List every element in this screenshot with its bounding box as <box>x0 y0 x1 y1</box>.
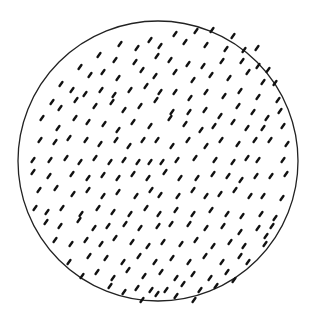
dash-mark <box>143 274 146 278</box>
dash-mark <box>219 114 222 118</box>
dash-mark <box>234 188 237 192</box>
dash-mark <box>102 173 105 177</box>
dash-mark <box>123 108 126 112</box>
dash-mark <box>72 192 75 196</box>
dash-mark <box>195 238 198 242</box>
dash-mark <box>176 158 179 162</box>
dash-mark <box>212 172 215 176</box>
dash-mark <box>192 188 195 192</box>
dash-mark <box>84 92 87 96</box>
dash-mark <box>149 124 152 128</box>
dash-mark <box>260 212 263 216</box>
dash-mark <box>175 294 178 298</box>
dash-mark <box>220 138 223 142</box>
dash-mark <box>246 126 249 130</box>
dash-mark <box>39 138 42 142</box>
dash-mark <box>247 260 250 264</box>
dash-mark <box>187 62 190 66</box>
dash-mark <box>127 268 130 272</box>
dash-mark <box>155 98 158 102</box>
dash-mark <box>175 208 178 212</box>
dash-mark <box>99 142 102 146</box>
dash-mark <box>147 176 150 180</box>
dash-mark <box>87 120 90 124</box>
dash-mark <box>188 260 191 264</box>
dash-mark <box>210 208 213 212</box>
dash-mark <box>129 88 132 92</box>
dash-mark <box>88 254 91 258</box>
dash-mark <box>134 60 137 64</box>
dash-mark <box>189 96 192 100</box>
dash-mark <box>107 224 110 228</box>
dash-mark <box>117 176 120 180</box>
dash-mark <box>195 29 198 33</box>
dash-mark <box>239 254 242 258</box>
dash-mark <box>34 206 37 210</box>
dash-mark <box>252 110 255 114</box>
dash-mark <box>188 110 191 114</box>
dash-mark <box>74 116 77 120</box>
dash-mark <box>87 188 90 192</box>
dash-mark <box>267 68 270 72</box>
dash-mark <box>122 260 125 264</box>
dash-mark <box>262 194 265 198</box>
dash-mark <box>51 100 54 104</box>
dash-mark <box>237 142 240 146</box>
dash-mark <box>171 256 174 260</box>
dash-mark <box>257 64 260 68</box>
dash-mark <box>257 158 260 162</box>
dash-mark <box>219 192 222 196</box>
dash-mark <box>59 106 62 110</box>
dash-mark <box>32 158 35 162</box>
dash-mark <box>54 238 57 242</box>
dash-mark <box>269 138 272 142</box>
dash-mark <box>70 242 73 246</box>
dash-mark <box>182 282 185 286</box>
dash-mark <box>150 288 153 292</box>
dash-mark <box>225 47 228 51</box>
dash-mark <box>154 260 157 264</box>
dash-mark <box>192 272 195 276</box>
dash-mark <box>139 104 142 108</box>
dash-mark <box>135 194 138 198</box>
dash-mark <box>79 160 82 164</box>
dash-mark <box>85 238 88 242</box>
dash-mark <box>187 138 190 142</box>
dash-mark <box>271 224 274 228</box>
dash-mark <box>80 212 83 216</box>
dash-mark <box>228 76 231 80</box>
dash-mark <box>205 226 208 230</box>
dash-mark <box>229 240 232 244</box>
dash-mark <box>117 128 120 132</box>
dash-mark <box>141 68 144 72</box>
dash-mark <box>174 90 177 94</box>
dash-mark <box>240 178 243 182</box>
dash-mark <box>204 108 207 112</box>
dash-mark <box>112 276 115 280</box>
dash-mark <box>161 160 164 164</box>
dash-mark <box>205 43 208 47</box>
dash-mark <box>222 224 225 228</box>
dash-mark <box>117 76 120 80</box>
dash-mark <box>257 95 260 99</box>
dash-mark <box>54 140 57 144</box>
dash-marks <box>32 28 289 302</box>
dash-mark <box>192 78 195 82</box>
dash-mark <box>241 214 244 218</box>
dash-mark <box>128 144 131 148</box>
dash-mark <box>204 254 207 258</box>
dash-mark <box>211 28 214 32</box>
dash-mark <box>100 88 103 92</box>
dash-mark <box>214 158 217 162</box>
dash-mark <box>193 298 196 302</box>
dash-mark <box>102 70 105 74</box>
dash-mark <box>87 176 90 180</box>
dash-mark <box>59 224 62 228</box>
dash-mark <box>196 176 199 180</box>
dash-mark <box>97 206 100 210</box>
dash-mark <box>192 212 195 216</box>
dash-mark <box>105 256 108 260</box>
dash-mark <box>199 288 202 292</box>
dash-mark <box>180 242 183 246</box>
dash-mark <box>256 46 259 50</box>
